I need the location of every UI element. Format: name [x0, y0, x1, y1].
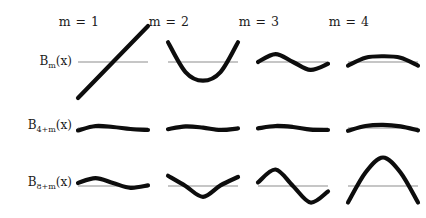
basis-curve	[168, 126, 238, 130]
basis-curve	[348, 56, 418, 65]
panels-svg	[0, 0, 426, 218]
basis-curve	[348, 158, 418, 203]
basis-curve	[78, 126, 148, 131]
basis-function-figure: m = 1 m = 2 m = 3 m = 4 Bm(x) B4+m(x) B8…	[0, 0, 426, 218]
basis-curve	[258, 126, 328, 130]
basis-curve	[168, 42, 238, 81]
